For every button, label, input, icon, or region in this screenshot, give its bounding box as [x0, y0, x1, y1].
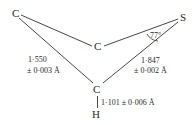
atom-s: S [180, 12, 186, 23]
atom-c-bottom: C [93, 84, 100, 95]
bond-label-cc-error: ± 0·003 Å [27, 66, 60, 75]
bond-label-cs-error: ± 0·002 Å [134, 66, 167, 75]
bond-label-cs-value: 1·847 [141, 56, 160, 65]
atom-c-middle: C [94, 41, 101, 52]
atom-c-left: C [12, 8, 19, 19]
bond-cleft-cmid [21, 15, 92, 46]
bond-label-cc-value: 1·550 [28, 55, 47, 64]
atom-h: H [92, 109, 100, 120]
bond-cmid-s [104, 19, 178, 46]
bond-label-ch: 1·101 ± 0·006 Å [101, 98, 155, 107]
angle-label: 77° [150, 32, 161, 40]
